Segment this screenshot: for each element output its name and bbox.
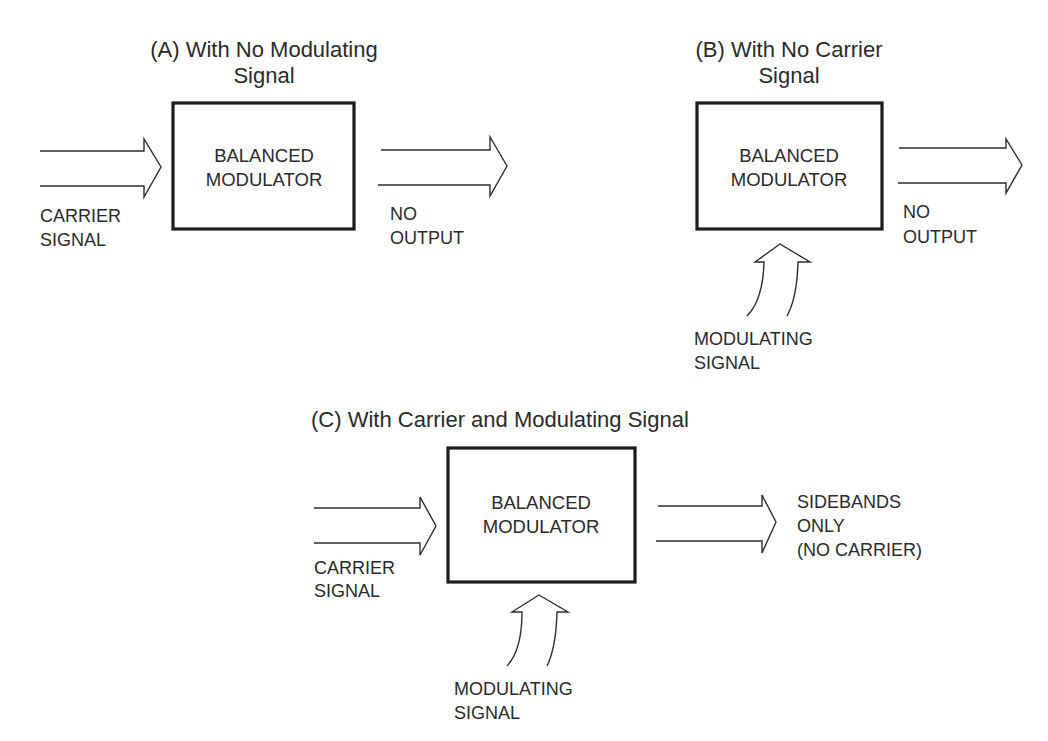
panel-c-input-label-line2: SIGNAL [314,581,380,601]
panel-c-title: (C) With Carrier and Modulating Signal [311,407,689,432]
panel-b-box-label-line2: MODULATOR [731,169,848,190]
panel-a-carrier-arrow-icon [40,139,161,197]
panel-a-title-line1: (A) With No Modulating [150,37,377,62]
panel-a-output-arrow-icon [378,137,507,196]
panel-c-modulating-arrow-icon [507,595,568,666]
balanced-modulator-diagram: (A) With No Modulating Signal BALANCED M… [0,0,1048,741]
panel-a: (A) With No Modulating Signal BALANCED M… [40,37,507,250]
panel-b: (B) With No Carrier Signal BALANCED MODU… [694,37,1022,373]
panel-a-box-label-line1: BALANCED [214,145,314,166]
panel-b-modulator-box [697,103,882,229]
panel-b-output-label-line1: NO [903,202,930,222]
panel-c-modulator-box [448,448,635,582]
panel-b-output-label-line2: OUTPUT [903,227,977,247]
panel-c-output-label-line2: ONLY [797,516,845,536]
panel-b-title-line2: Signal [758,63,819,88]
panel-a-modulator-box [173,103,354,229]
panel-a-input-label-line1: CARRIER [40,206,121,226]
panel-a-output-label-line2: OUTPUT [390,228,464,248]
panel-c-input-label-line1: CARRIER [314,558,395,578]
panel-b-output-arrow-icon [898,139,1022,193]
panel-a-box-label-line2: MODULATOR [206,169,323,190]
panel-b-modulating-label-line2: SIGNAL [694,353,760,373]
panel-c-modulating-label-line2: SIGNAL [454,703,520,723]
panel-c-output-arrow-icon [656,495,776,553]
panel-c-output-label-line1: SIDEBANDS [797,492,901,512]
panel-a-title-line2: Signal [233,63,294,88]
panel-b-title-line1: (B) With No Carrier [695,37,882,62]
panel-c-modulating-label-line1: MODULATING [454,679,573,699]
panel-c-box-label-line1: BALANCED [491,492,591,513]
panel-c-output-label-line3: (NO CARRIER) [797,540,922,560]
panel-c: (C) With Carrier and Modulating Signal B… [311,407,922,723]
panel-b-box-label-line1: BALANCED [739,145,839,166]
panel-a-output-label-line1: NO [390,204,417,224]
panel-c-carrier-arrow-icon [314,497,436,555]
panel-b-modulating-arrow-icon [747,244,810,316]
panel-c-box-label-line2: MODULATOR [483,516,600,537]
panel-b-modulating-label-line1: MODULATING [694,329,813,349]
panel-a-input-label-line2: SIGNAL [40,230,106,250]
